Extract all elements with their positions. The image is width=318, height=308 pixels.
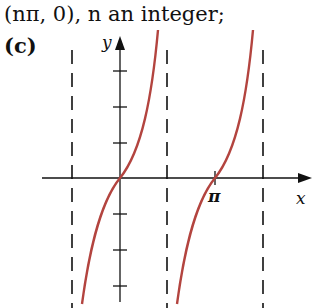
y-axis-arrow <box>115 36 125 50</box>
tan-curve-2 <box>177 30 253 304</box>
tangent-graph <box>0 0 318 308</box>
y-label: y <box>102 32 112 52</box>
pi-label: π <box>208 186 220 206</box>
asymptotes <box>72 50 263 308</box>
x-label: x <box>296 188 306 208</box>
x-axis-arrow <box>298 173 312 183</box>
